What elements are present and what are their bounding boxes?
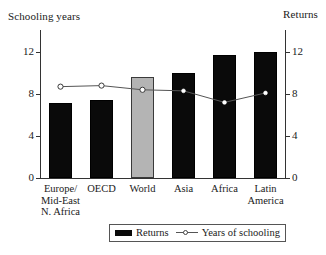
x-axis-label: LatinAmerica xyxy=(239,183,293,206)
axis-tick-label: 12 xyxy=(292,45,314,57)
legend-label-returns: Returns xyxy=(136,227,169,238)
x-axis-labels: Europe/Mid-EastN. AfricaOECDWorldAsiaAfr… xyxy=(40,181,286,225)
bar-slot xyxy=(40,30,81,178)
bar-slot xyxy=(81,30,122,178)
axis-tick-label: 8 xyxy=(292,87,314,99)
axis-tick-label: 0 xyxy=(12,171,34,183)
legend-item-returns: Returns xyxy=(115,227,169,238)
legend-line-swatch-icon xyxy=(176,229,198,237)
bar xyxy=(254,52,277,178)
legend-bar-swatch-icon xyxy=(115,230,132,236)
bar-slot xyxy=(204,30,245,178)
axis-tick-label: 0 xyxy=(292,171,314,183)
legend-item-years-of-schooling: Years of schooling xyxy=(176,227,280,238)
axis-tick-label: 8 xyxy=(12,87,34,99)
bar xyxy=(131,77,154,178)
bar xyxy=(90,100,113,178)
legend-label-years-of-schooling: Years of schooling xyxy=(202,227,280,238)
bar-slot xyxy=(122,30,163,178)
x-axis-line xyxy=(40,178,286,179)
left-axis-title: Schooling years xyxy=(8,10,80,22)
axis-tick-mark xyxy=(36,178,40,179)
bar-slot xyxy=(245,30,286,178)
chart-legend: Returns Years of schooling xyxy=(109,224,286,242)
bar-slot xyxy=(163,30,204,178)
right-axis-title: Returns xyxy=(283,8,318,20)
axis-tick-mark xyxy=(286,94,290,95)
bar xyxy=(49,103,72,178)
axis-tick-mark xyxy=(286,136,290,137)
bar xyxy=(213,55,236,178)
axis-tick-mark xyxy=(286,52,290,53)
axis-tick-label: 4 xyxy=(12,129,34,141)
bar-series-returns xyxy=(40,30,286,178)
axis-tick-mark xyxy=(286,178,290,179)
chart-figure: Schooling years Returns 04812 04812 Euro… xyxy=(0,0,326,255)
axis-tick-label: 12 xyxy=(12,45,34,57)
bar xyxy=(172,73,195,178)
axis-tick-label: 4 xyxy=(292,129,314,141)
